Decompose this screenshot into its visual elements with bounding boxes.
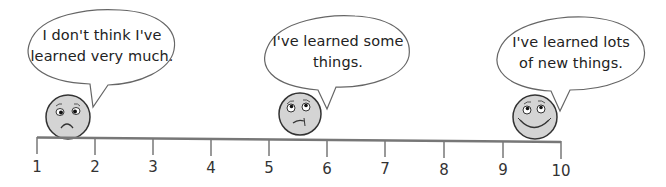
tick-label-6: 6 <box>322 160 332 178</box>
speech-line: of new things. <box>498 53 644 74</box>
number-line <box>37 137 561 159</box>
tick-label-9: 9 <box>498 161 508 179</box>
speech-text-happy: I've learned lots of new things. <box>498 32 644 74</box>
tick-label-7: 7 <box>380 160 390 178</box>
tick-label-10: 10 <box>551 162 570 180</box>
tick-label-4: 4 <box>206 159 216 177</box>
sad-face-icon <box>46 95 90 139</box>
tick-label-5: 5 <box>264 159 274 177</box>
tick-label-2: 2 <box>90 158 100 176</box>
speech-line: things. <box>266 52 410 73</box>
speech-line: learned very much. <box>30 46 174 67</box>
speech-text-sad: I don't think I've learned very much. <box>30 25 174 67</box>
unsure-face-icon <box>279 93 321 135</box>
happy-face-icon <box>513 95 557 139</box>
speech-line: I've learned some <box>266 31 410 52</box>
tick-label-8: 8 <box>439 161 449 179</box>
speech-text-unsure: I've learned some things. <box>266 31 410 73</box>
tick-label-3: 3 <box>148 158 158 176</box>
tick-label-1: 1 <box>32 158 42 176</box>
speech-line: I've learned lots <box>498 32 644 53</box>
speech-line: I don't think I've <box>30 25 174 46</box>
